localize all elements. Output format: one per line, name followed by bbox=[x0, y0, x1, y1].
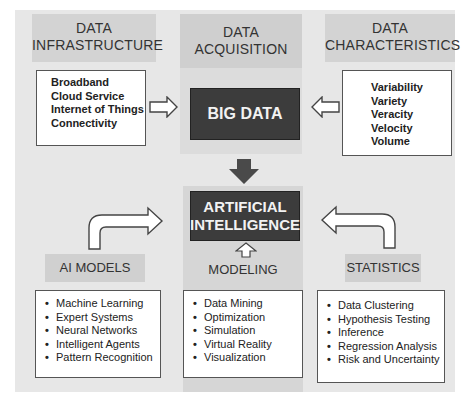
ai-models-list: Machine Learning Expert Systems Neural N… bbox=[38, 297, 160, 365]
acquisition-title: DATA ACQUISITION bbox=[180, 24, 302, 58]
list-item: Velocity bbox=[371, 122, 451, 136]
curved-arrow-right-icon bbox=[86, 206, 164, 250]
list-item: Cloud Service bbox=[51, 90, 145, 104]
statistics-list: Data Clustering Hypothesis Testing Infer… bbox=[320, 299, 444, 367]
ai-models-title-band: AI MODELS bbox=[45, 254, 145, 282]
ai-models-list-box: Machine Learning Expert Systems Neural N… bbox=[35, 290, 161, 378]
list-item: Volume bbox=[371, 135, 451, 149]
list-item: Internet of Things bbox=[51, 103, 145, 117]
list-item: Variety bbox=[371, 95, 451, 109]
big-data-label: BIG DATA bbox=[208, 105, 283, 123]
list-item: Intelligent Agents bbox=[38, 338, 160, 352]
list-item: Virtual Reality bbox=[186, 338, 302, 352]
list-item: Expert Systems bbox=[38, 311, 160, 325]
infrastructure-title: DATA INFRASTRUCTURE bbox=[32, 20, 156, 54]
list-item: Connectivity bbox=[51, 117, 145, 131]
acquisition-title-line2: ACQUISITION bbox=[180, 41, 302, 58]
modeling-list: Data Mining Optimization Simulation Virt… bbox=[186, 297, 302, 365]
arrow-right-icon bbox=[149, 96, 179, 118]
characteristics-title: DATA CHARACTERISTICS bbox=[325, 20, 455, 54]
list-item: Neural Networks bbox=[38, 324, 160, 338]
statistics-title-band: STATISTICS bbox=[345, 254, 421, 282]
statistics-list-box: Data Clustering Hypothesis Testing Infer… bbox=[317, 290, 445, 383]
curved-arrow-left-icon bbox=[320, 205, 398, 249]
list-item: Machine Learning bbox=[38, 297, 160, 311]
modeling-title-band: MODELING bbox=[183, 258, 303, 282]
modeling-title: MODELING bbox=[208, 262, 277, 277]
infrastructure-list-box: Broadband Cloud Service Internet of Thin… bbox=[36, 70, 146, 146]
statistics-title: STATISTICS bbox=[346, 260, 419, 275]
list-item: Optimization bbox=[186, 311, 302, 325]
ai-models-title: AI MODELS bbox=[60, 260, 131, 275]
list-item: Variability bbox=[371, 81, 451, 95]
arrow-left-icon bbox=[310, 96, 340, 118]
infrastructure-list: Broadband Cloud Service Internet of Thin… bbox=[51, 76, 145, 130]
infrastructure-title-line1: DATA bbox=[32, 20, 156, 37]
characteristics-list-box: Variability Variety Veracity Velocity Vo… bbox=[342, 70, 452, 156]
characteristics-list: Variability Variety Veracity Velocity Vo… bbox=[371, 81, 451, 149]
list-item: Data Clustering bbox=[320, 299, 444, 313]
arrow-down-icon bbox=[228, 159, 260, 185]
modeling-list-box: Data Mining Optimization Simulation Virt… bbox=[183, 290, 303, 378]
infrastructure-title-line2: INFRASTRUCTURE bbox=[32, 37, 156, 54]
list-item: Simulation bbox=[186, 324, 302, 338]
characteristics-title-line2: CHARACTERISTICS bbox=[325, 37, 455, 54]
big-data-box: BIG DATA bbox=[190, 88, 300, 140]
list-item: Data Mining bbox=[186, 297, 302, 311]
list-item: Regression Analysis bbox=[320, 340, 444, 354]
list-item: Hypothesis Testing bbox=[320, 313, 444, 327]
list-item: Visualization bbox=[186, 351, 302, 365]
list-item: Inference bbox=[320, 326, 444, 340]
ai-core-box: ARTIFICIAL INTELLIGENCE bbox=[190, 191, 300, 241]
acquisition-title-line1: DATA bbox=[180, 24, 302, 41]
ai-core-line2: INTELLIGENCE bbox=[190, 216, 300, 234]
characteristics-title-line1: DATA bbox=[325, 20, 455, 37]
list-item: Risk and Uncertainty bbox=[320, 353, 444, 367]
list-item: Pattern Recognition bbox=[38, 351, 160, 365]
arrow-up-icon bbox=[235, 242, 257, 258]
list-item: Veracity bbox=[371, 108, 451, 122]
ai-core-line1: ARTIFICIAL bbox=[203, 198, 286, 216]
list-item: Broadband bbox=[51, 76, 145, 90]
